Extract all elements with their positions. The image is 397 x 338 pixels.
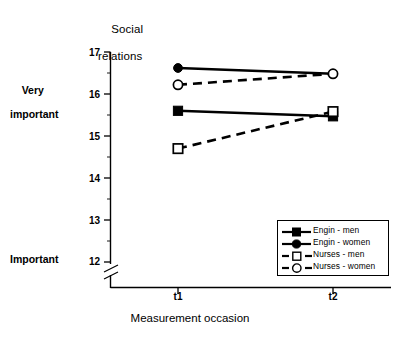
- series-line-nurses-women: [178, 74, 333, 85]
- marker-nurses-women-t1: [173, 80, 182, 89]
- series-line-engin-men: [178, 111, 333, 117]
- legend-item-engin-men: Engin - men: [280, 224, 386, 236]
- legend-label-nurses-men: Nurses - men: [313, 249, 364, 259]
- social-relations-line-chart: Social relations Very important Importan…: [0, 0, 397, 338]
- legend-item-nurses-men: Nurses - men: [280, 248, 386, 260]
- legend-swatch-engin-women: [280, 236, 313, 248]
- legend-item-nurses-women: Nurses - women: [280, 260, 386, 272]
- marker-nurses-women-t2: [328, 69, 337, 78]
- legend-swatch-nurses-women: [280, 260, 313, 272]
- legend-label-engin-men: Engin - men: [313, 225, 359, 235]
- legend: Engin - men Engin - women Nurses - men: [277, 220, 389, 276]
- legend-swatch-nurses-men: [280, 248, 313, 260]
- legend-swatch-engin-men: [280, 224, 313, 236]
- marker-nurses-men-t2: [328, 107, 337, 116]
- marker-engin-women-t1: [174, 64, 183, 73]
- series-line-engin-women: [178, 68, 333, 74]
- legend-label-nurses-women: Nurses - women: [313, 261, 375, 271]
- legend-label-engin-women: Engin - women: [313, 237, 370, 247]
- axis-break-slash-upper: [104, 265, 118, 272]
- plot-area: [0, 0, 397, 338]
- marker-engin-men-t1: [173, 106, 182, 115]
- marker-nurses-men-t1: [173, 144, 182, 153]
- series-line-nurses-men: [178, 112, 333, 149]
- legend-item-engin-women: Engin - women: [280, 236, 386, 248]
